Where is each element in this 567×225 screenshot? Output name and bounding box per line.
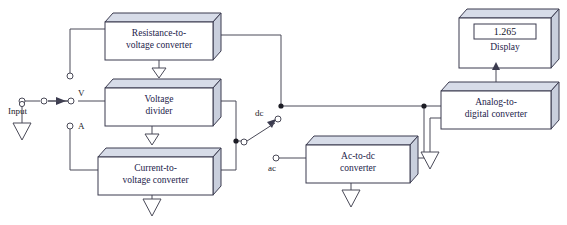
label-amps: A (78, 121, 85, 131)
display-caption: Display (459, 42, 551, 53)
block-voltage-divider (105, 79, 221, 126)
terminal-dcac-common[interactable] (241, 139, 247, 145)
arrow-resistance-to-voltage-divider (152, 68, 166, 78)
wire-adc-ground-stem (430, 118, 441, 152)
display-reading: 1.265 (474, 26, 536, 37)
terminal-amps[interactable] (67, 123, 73, 129)
block-display (459, 9, 559, 68)
wire-a-to-current-block (70, 129, 98, 170)
ground-current-converter (143, 199, 161, 216)
block-resistance-to-voltage (105, 13, 221, 60)
block-current-to-voltage (98, 148, 221, 195)
terminal-switch-common[interactable] (68, 98, 74, 104)
switch-blade-dcac (247, 123, 275, 141)
label-dc: dc (255, 108, 264, 118)
block-diagram: Resistance-to- voltage converter Voltage… (0, 0, 567, 225)
block-analog-to-digital (441, 82, 559, 129)
terminal-dc[interactable] (275, 116, 281, 122)
wire-v-to-resistance-block (70, 29, 105, 79)
terminal-input-mid[interactable] (41, 98, 47, 104)
junction-converter-outputs (233, 138, 238, 143)
junction-adc-input (421, 103, 426, 108)
arrow-voltage-divider-to-current (145, 134, 159, 145)
junction-dc-bus (278, 103, 283, 108)
terminal-volts[interactable] (67, 73, 73, 79)
label-volts: V (78, 88, 85, 98)
block-ac-to-dc (306, 136, 418, 183)
wire-resistance-out-to-dc-node (213, 35, 281, 106)
ground-input (13, 123, 31, 140)
ground-ac-to-dc (342, 190, 360, 207)
label-input: Input (8, 106, 27, 116)
terminal-ac[interactable] (273, 155, 279, 161)
ground-analog-to-digital (421, 152, 439, 169)
label-ac: ac (268, 163, 276, 173)
